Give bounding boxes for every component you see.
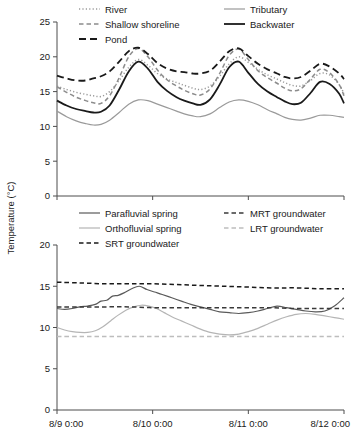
legend-item-shallow-shoreline[interactable]: Shallow shoreline <box>79 19 179 30</box>
legend-item-parafluvial-spring[interactable]: Parafluvial spring <box>79 208 178 219</box>
legend-label-parafluvial-spring: Parafluvial spring <box>105 208 178 219</box>
series-line-pond <box>57 48 344 81</box>
y-axis-title: Temperature (°C) <box>5 182 16 255</box>
legend-label-backwater: Backwater <box>250 19 294 30</box>
y-tick-label-top-25: 25 <box>39 16 50 27</box>
series-line-srt-groundwater <box>57 282 344 289</box>
legend-top: RiverShallow shorelinePondTributaryBackw… <box>79 4 294 45</box>
legend-item-tributary[interactable]: Tributary <box>224 4 287 15</box>
legend-label-shallow-shoreline: Shallow shoreline <box>105 19 179 30</box>
series-line-parafluvial-spring <box>57 286 344 313</box>
axis-spine-top <box>57 22 344 196</box>
x-tick-label-2: 8/11 0:00 <box>229 418 268 429</box>
chart-canvas: 051015202505101520RiverShallow shoreline… <box>0 0 352 437</box>
legend-label-mrt-groundwater: MRT groundwater <box>250 208 326 219</box>
y-tick-label-top-20: 20 <box>39 51 50 62</box>
legend-item-orthofluvial-spring[interactable]: Orthofluvial spring <box>79 223 182 234</box>
x-tick-label-0: 8/9 0:00 <box>49 418 83 429</box>
legend-label-pond: Pond <box>105 34 127 45</box>
y-tick-label-bottom-0: 0 <box>45 404 50 415</box>
y-tick-label-top-0: 0 <box>45 190 50 201</box>
legend-item-river[interactable]: River <box>79 4 127 15</box>
panel-top: 0510152025 <box>39 16 344 201</box>
legend-label-lrt-groundwater: LRT groundwater <box>250 223 323 234</box>
series-group-bottom <box>57 282 344 336</box>
legend-bottom: Parafluvial springOrthofluvial springSRT… <box>79 208 326 249</box>
series-line-mrt-groundwater <box>57 307 344 309</box>
legend-label-river: River <box>105 4 127 15</box>
legend-item-mrt-groundwater[interactable]: MRT groundwater <box>224 208 326 219</box>
x-tick-label-3: 8/12 0:00 <box>310 418 350 429</box>
legend-item-lrt-groundwater[interactable]: LRT groundwater <box>224 223 323 234</box>
panel-bottom: 05101520 <box>39 239 344 415</box>
y-tick-label-top-15: 15 <box>39 86 50 97</box>
y-tick-label-bottom-15: 15 <box>39 281 50 292</box>
legend-item-pond[interactable]: Pond <box>79 34 127 45</box>
legend-label-srt-groundwater: SRT groundwater <box>105 238 179 249</box>
legend-label-orthofluvial-spring: Orthofluvial spring <box>105 223 182 234</box>
y-tick-label-bottom-10: 10 <box>39 322 50 333</box>
legend-item-srt-groundwater[interactable]: SRT groundwater <box>79 238 179 249</box>
series-group-top <box>57 48 344 125</box>
legend-item-backwater[interactable]: Backwater <box>224 19 294 30</box>
y-tick-label-bottom-20: 20 <box>39 239 50 250</box>
legend-label-tributary: Tributary <box>250 4 287 15</box>
y-tick-label-top-10: 10 <box>39 121 50 132</box>
series-line-backwater <box>57 61 344 112</box>
x-tick-label-1: 8/10 0:00 <box>133 418 173 429</box>
temperature-timeseries-figure: 051015202505101520RiverShallow shoreline… <box>0 0 352 437</box>
y-tick-label-bottom-5: 5 <box>45 363 50 374</box>
axis-spine-bottom <box>57 245 344 410</box>
y-tick-label-top-5: 5 <box>45 156 50 167</box>
